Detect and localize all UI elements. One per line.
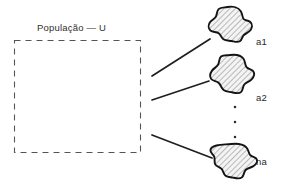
sample-blob-na bbox=[210, 144, 257, 179]
ellipsis-dot bbox=[234, 106, 237, 109]
sample-blob-a1 bbox=[209, 7, 252, 42]
population-sampling-diagram: População — U a1 a2 na bbox=[0, 0, 291, 190]
sample-label-na: na bbox=[256, 157, 267, 167]
sample-blob-a2 bbox=[210, 55, 254, 93]
vertical-ellipsis bbox=[234, 106, 237, 139]
population-set-label: População — U bbox=[37, 23, 106, 33]
ellipsis-dot bbox=[234, 121, 237, 124]
connector-line-na bbox=[152, 135, 212, 158]
population-set-box bbox=[15, 41, 141, 153]
sample-label-a1: a1 bbox=[256, 37, 267, 47]
connector-line-a1 bbox=[152, 39, 210, 76]
ellipsis-dot bbox=[234, 136, 237, 139]
sample-label-a2: a2 bbox=[256, 93, 267, 103]
connector-line-a2 bbox=[152, 81, 209, 100]
